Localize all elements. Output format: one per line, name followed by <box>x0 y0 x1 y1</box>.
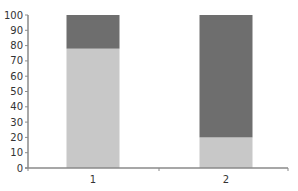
bar-segment-lower-2 <box>200 137 253 168</box>
x-tick-label: 1 <box>90 174 96 185</box>
y-tick-label: 90 <box>10 25 23 36</box>
y-tick-label: 50 <box>10 86 23 97</box>
stacked-bar-chart: 120102030405060708090100 <box>0 0 298 191</box>
y-tick-label: 0 <box>17 163 23 174</box>
chart-canvas: 120102030405060708090100 <box>0 0 298 191</box>
y-tick-label: 20 <box>10 132 23 143</box>
bars-group <box>67 15 253 168</box>
y-tick-label: 40 <box>10 101 23 112</box>
y-tick-label: 30 <box>10 117 23 128</box>
bar-segment-lower-1 <box>67 49 120 168</box>
y-tick-label: 80 <box>10 40 23 51</box>
bar-segment-upper-1 <box>67 15 120 49</box>
y-tick-label: 10 <box>10 147 23 158</box>
bar-segment-upper-2 <box>200 15 253 137</box>
y-tick-label: 100 <box>4 10 23 21</box>
y-tick-label: 60 <box>10 71 23 82</box>
y-tick-label: 70 <box>10 55 23 66</box>
x-tick-label: 2 <box>223 174 229 185</box>
